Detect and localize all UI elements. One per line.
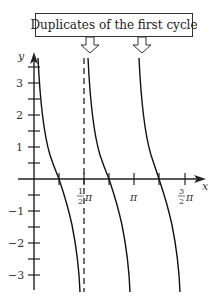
callout-arrow-icon: [133, 37, 151, 53]
y-axis-label: y: [17, 50, 25, 63]
x-tick-label-pi: π: [129, 191, 138, 204]
cot-graph: y x 3 2 1 −1 −2 −3 1 2 π π 3 2 π: [0, 0, 220, 302]
x-tick-label-three-half-pi: 3 2 π: [178, 187, 194, 206]
y-tick-label: 3: [16, 77, 23, 90]
svg-text:1: 1: [78, 187, 83, 196]
x-axis-label: x: [202, 180, 209, 193]
callout-box: Duplicates of the first cycle: [35, 13, 193, 37]
callout-arrow-icon: [81, 37, 99, 53]
y-tick-label: −3: [8, 269, 24, 282]
y-tick-label: −1: [8, 205, 24, 218]
callout-text: Duplicates of the first cycle: [30, 18, 197, 32]
y-tick-label: 1: [16, 141, 23, 154]
svg-text:π: π: [185, 191, 194, 204]
x-tick-label-half-pi: 1 2 π: [77, 187, 93, 206]
y-tick-label: 2: [16, 109, 23, 122]
svg-text:π: π: [84, 191, 93, 204]
svg-text:3: 3: [179, 187, 184, 196]
svg-text:2: 2: [78, 197, 83, 206]
y-tick-label: −2: [8, 237, 24, 250]
svg-text:2: 2: [179, 197, 184, 206]
